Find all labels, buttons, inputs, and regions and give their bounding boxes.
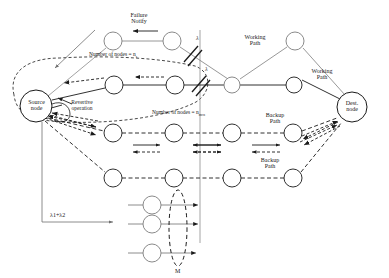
number-of-nodes-working-text: Number of nodes = n [89,51,136,57]
dest-fanin-arrows [300,121,340,145]
backup-low-node-2 [165,169,183,187]
number-of-nodes-backup-label: Number of nodes = nmcn [152,110,205,118]
notify-chain [48,30,228,96]
working-node-1 [105,76,123,94]
notify-node-left [104,32,122,50]
lambda-sum-label: λ1+λ2 [50,212,65,218]
failure-notify-line2: Notify [119,18,159,24]
lambda-lower-label: λ [205,66,208,72]
backup-path-lower-line2: Path [253,163,287,169]
revertive-operation-label: Revertive operation [62,100,102,112]
working-path-right-line2: Path [303,74,341,80]
lambda-sum-bracket [42,122,113,222]
number-of-nodes-working-label: Number of nodes = ns [89,52,137,60]
multiplicity-label: M [175,268,180,274]
backup-low-node-3 [223,169,241,187]
node-circles [20,32,367,262]
working-path-top-line2: Path [236,40,274,46]
backup-mid-node-4 [284,124,302,142]
failure-notify-label: Failure Notify [119,12,159,25]
network-diagram-svg [0,0,389,278]
source-node-label: Source node [18,99,55,112]
source-node-line2: node [18,105,55,111]
multiplicity-node-3 [143,244,161,262]
multiplicity-node-2 [143,215,161,233]
working-path-top-label: Working Path [236,34,274,47]
multiplicity-group [128,190,198,266]
apex-node [286,32,304,50]
backup-mid-node-3 [223,124,241,142]
backup-low-node-1 [104,169,122,187]
backup-mid-node-1 [104,124,122,142]
junction-node [224,77,240,93]
backup-mid-node-2 [165,124,183,142]
lambda-upper-label: λ [196,35,199,41]
working-path-right-label: Working Path [303,68,341,81]
diagram-canvas: Failure Notify Number of nodes = ns Numb… [0,0,389,278]
revertive-operation-line2: operation [62,106,102,112]
number-of-nodes-backup-text: Number of nodes = [152,109,195,115]
number-of-nodes-backup-subscript: mcn [199,113,205,117]
working-node-3 [286,77,302,93]
working-node-2 [166,76,184,94]
number-of-nodes-working-subscript: s [136,55,137,59]
dest-node-line2: node [335,106,369,112]
notify-node-right [163,32,181,50]
backup-path-middle-label: Backup Path [258,112,292,125]
dest-node-label: Dest. node [335,100,369,113]
backup-path-lower-label: Backup Path [253,157,287,170]
backup-low-node-4 [284,169,302,187]
multiplicity-ellipse [169,190,187,266]
multiplicity-node-1 [143,196,161,214]
signalling-arrows-middle [133,145,280,152]
backup-path-middle-line2: Path [258,118,292,124]
